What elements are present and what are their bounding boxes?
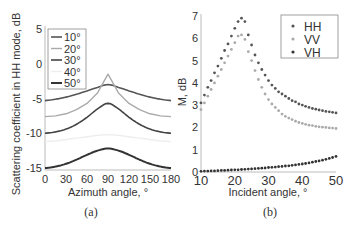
- data-point: [271, 166, 274, 169]
- data-point: [291, 99, 294, 102]
- data-point: [284, 165, 287, 168]
- data-point: [213, 71, 216, 74]
- legend-marker: [291, 37, 294, 40]
- data-point: [331, 156, 334, 159]
- data-point: [244, 20, 247, 23]
- panel-b-legend: HHVVVH: [281, 15, 338, 60]
- data-point: [328, 127, 331, 130]
- data-point: [227, 43, 230, 46]
- series-line-3: [45, 135, 171, 142]
- data-point: [274, 106, 277, 109]
- panel-a-y-label: Scattering coefficient in HH mode, dB: [10, 13, 22, 196]
- x-tick-label: 10: [194, 173, 208, 188]
- y-tick-label: 7: [192, 10, 198, 22]
- data-point: [223, 169, 226, 172]
- panel-b-y-label: M, dB: [176, 78, 188, 107]
- y-tick-label: -10: [26, 127, 42, 139]
- x-tick-label: 60: [81, 173, 93, 185]
- data-point: [230, 169, 233, 172]
- data-point: [308, 162, 311, 165]
- data-point: [210, 88, 213, 91]
- data-point: [287, 117, 290, 120]
- data-point: [298, 163, 301, 166]
- data-point: [314, 125, 317, 128]
- data-point: [254, 54, 257, 57]
- data-point: [220, 68, 223, 71]
- data-point: [223, 61, 226, 64]
- y-tick-label: 5: [36, 23, 42, 35]
- series-line-2: [45, 103, 171, 133]
- panel-a-legend: 10°20°30°40°50°: [48, 29, 86, 89]
- data-point: [304, 162, 307, 165]
- data-point: [220, 169, 223, 172]
- data-point: [203, 170, 206, 173]
- data-point: [298, 121, 301, 124]
- y-tick-label: 2: [192, 121, 198, 133]
- data-point: [200, 170, 203, 173]
- data-point: [257, 167, 260, 170]
- data-point: [230, 48, 233, 51]
- data-point: [308, 106, 311, 109]
- data-point: [331, 111, 334, 114]
- data-point: [294, 120, 297, 123]
- data-point: [311, 107, 314, 110]
- legend-marker: [291, 50, 294, 53]
- data-point: [247, 168, 250, 171]
- data-point: [247, 50, 250, 53]
- data-point: [250, 59, 253, 62]
- data-point: [206, 170, 209, 173]
- y-tick-label: -15: [26, 162, 42, 174]
- data-point: [237, 168, 240, 171]
- data-point: [200, 102, 203, 105]
- data-point: [301, 163, 304, 166]
- data-point: [206, 86, 209, 89]
- data-point: [264, 93, 267, 96]
- x-tick-label: 90: [102, 173, 114, 185]
- panel-a-caption: (a): [84, 205, 97, 219]
- data-point: [277, 109, 280, 112]
- data-point: [287, 97, 290, 100]
- data-point: [244, 168, 247, 171]
- data-point: [271, 103, 274, 106]
- data-point: [281, 165, 284, 168]
- data-point: [321, 126, 324, 129]
- data-point: [274, 166, 277, 169]
- x-tick-label: 0: [42, 173, 48, 185]
- data-point: [257, 61, 260, 64]
- data-point: [240, 34, 243, 37]
- legend-label: HH: [304, 20, 321, 34]
- data-point: [217, 65, 220, 68]
- data-point: [321, 159, 324, 162]
- data-point: [298, 103, 301, 106]
- legend-label: VH: [304, 46, 321, 60]
- y-tick-label: 6: [192, 32, 198, 44]
- data-point: [304, 123, 307, 126]
- data-point: [291, 164, 294, 167]
- data-point: [318, 125, 321, 128]
- data-point: [284, 115, 287, 118]
- x-tick-label: 120: [120, 173, 138, 185]
- data-point: [281, 113, 284, 116]
- data-point: [318, 160, 321, 163]
- data-point: [254, 69, 257, 72]
- panel-b-x-label: Incident angle, °: [228, 186, 307, 198]
- y-tick-label: 1: [192, 144, 198, 156]
- data-point: [237, 20, 240, 23]
- data-point: [304, 105, 307, 108]
- data-point: [294, 164, 297, 167]
- data-point: [260, 167, 263, 170]
- data-point: [321, 109, 324, 112]
- x-tick-label: 50: [329, 173, 343, 188]
- data-point: [217, 75, 220, 78]
- panel-a-y-ticks: 50-5-10-15: [26, 23, 42, 174]
- data-point: [250, 168, 253, 171]
- data-point: [227, 55, 230, 58]
- data-point: [203, 102, 206, 105]
- data-point: [213, 82, 216, 85]
- data-point: [247, 34, 250, 37]
- data-point: [203, 94, 206, 97]
- panel-b-caption: (b): [263, 205, 277, 219]
- data-point: [335, 112, 338, 115]
- legend-label: 40°: [64, 66, 81, 78]
- data-point: [281, 93, 284, 96]
